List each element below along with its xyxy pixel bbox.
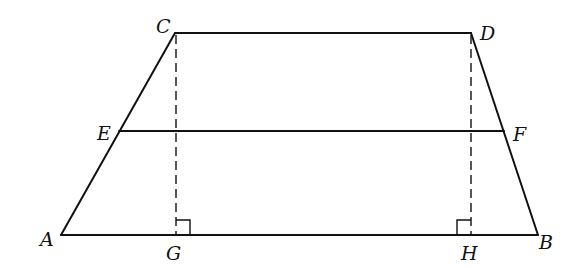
- segment-ac: [61, 33, 175, 235]
- label-g: G: [166, 242, 181, 264]
- segment-db: [471, 33, 538, 235]
- label-a: A: [38, 228, 54, 250]
- label-b: B: [538, 231, 553, 253]
- trapezoid-diagram: C D E F A B G H: [0, 0, 579, 268]
- label-h: H: [460, 242, 478, 264]
- right-angle-mark-h: [457, 220, 471, 235]
- label-c: C: [156, 15, 171, 37]
- label-e: E: [96, 122, 111, 144]
- right-angle-mark-g: [176, 220, 190, 235]
- label-d: D: [479, 22, 495, 44]
- label-f: F: [512, 123, 527, 145]
